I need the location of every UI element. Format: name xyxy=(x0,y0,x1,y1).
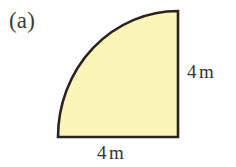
sector-group xyxy=(58,11,178,137)
dimension-right-unit: m xyxy=(199,61,214,82)
dimension-bottom-unit: m xyxy=(109,142,124,163)
dimension-bottom-value: 4 xyxy=(97,142,107,163)
dimension-label-right: 4m xyxy=(187,62,214,81)
quarter-circle-sector xyxy=(58,11,178,137)
part-label: (a) xyxy=(9,9,35,32)
dimension-right-value: 4 xyxy=(187,61,197,82)
figure-container: (a) 4m 4m xyxy=(0,0,236,167)
dimension-label-bottom: 4m xyxy=(97,143,124,162)
